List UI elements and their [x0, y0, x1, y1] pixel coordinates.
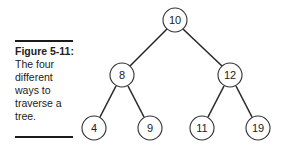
- edge-10-8: [130, 29, 167, 66]
- node-value: 8: [119, 69, 125, 81]
- edge-10-12: [183, 29, 222, 66]
- edge-8-4: [100, 86, 116, 117]
- edge-12-19: [236, 86, 252, 117]
- node-value: 10: [169, 14, 181, 26]
- edge-8-9: [128, 86, 144, 117]
- binary-tree-diagram: 10 8 12 4 9 11 19: [0, 0, 284, 155]
- tree-node-left-left: 4: [82, 116, 106, 140]
- node-value: 19: [252, 122, 264, 134]
- tree-node-right: 12: [218, 63, 242, 87]
- node-value: 11: [196, 122, 207, 134]
- node-value: 4: [91, 122, 97, 134]
- edge-12-11: [208, 86, 224, 117]
- node-value: 12: [224, 69, 236, 81]
- tree-node-right-left: 11: [190, 116, 214, 140]
- tree-node-right-right: 19: [246, 116, 270, 140]
- tree-node-root: 10: [163, 8, 187, 32]
- tree-node-left: 8: [110, 63, 134, 87]
- tree-node-left-right: 9: [138, 116, 162, 140]
- node-value: 9: [147, 122, 153, 134]
